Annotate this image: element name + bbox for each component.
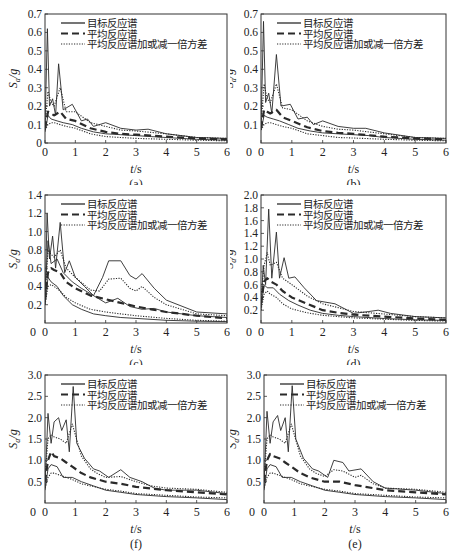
- chart-svg: 01234560.51.01.52.02.53.00Sa/gt/s(e)目标反应…: [230, 365, 461, 553]
- series-line: [45, 424, 227, 492]
- x-tick-label: 0: [42, 145, 48, 159]
- x-tick-label: 1: [72, 325, 78, 339]
- x-axis-label: t/s: [349, 522, 361, 536]
- y-tick-label: 2.5: [247, 390, 262, 402]
- chart-panel-d: 01234560.20.40.60.81.01.21.41.61.82.00Sa…: [230, 182, 461, 365]
- x-tick-label: 4: [382, 505, 388, 519]
- y-tick-label: 0.6: [244, 279, 259, 291]
- y-tick-label: 0.5: [28, 476, 43, 488]
- y-tick-label: 0.6: [28, 262, 43, 274]
- x-tick-label: 5: [413, 505, 419, 519]
- legend-entry: 平均反应谱加或减一倍方差: [303, 219, 423, 231]
- x-tick-label: 2: [103, 145, 109, 159]
- panel-caption: (c): [129, 357, 142, 365]
- chart-svg: 01234560.51.01.52.02.53.00Sa/gt/s(f)目标反应…: [0, 365, 230, 553]
- y-tick-label: 2.0: [244, 189, 259, 201]
- y-tick-label: 2.0: [28, 412, 43, 424]
- legend-entry: 平均反应谱加或减一倍方差: [303, 38, 423, 50]
- x-tick-label: 2: [320, 145, 326, 159]
- y-tick-label: 0.6: [28, 26, 43, 38]
- x-tick-label: 2: [322, 505, 328, 519]
- x-tick-label: 5: [194, 325, 200, 339]
- x-tick-label: 2: [320, 325, 326, 339]
- x-tick-label: 0: [42, 325, 48, 339]
- legend: 目标反应谱平均反应谱平均反应谱加或减一倍方差: [277, 17, 423, 50]
- legend-entry: 平均反应谱加或减一倍方差: [87, 38, 207, 50]
- chart-panel-b: 01234560.10.20.30.40.50.60.70Sa/gt/s(b)目…: [230, 0, 461, 185]
- x-axis-label: t/s: [348, 162, 360, 176]
- legend: 目标反应谱平均反应谱平均反应谱加或减一倍方差: [61, 378, 207, 411]
- y-tick-label: 1.8: [244, 202, 259, 214]
- y-tick-label: 2.5: [28, 390, 43, 402]
- chart-svg: 01234560.10.20.30.40.50.60.70Sa/gt/s(b)目…: [230, 0, 461, 185]
- series-line: [261, 84, 446, 138]
- x-tick-label: 3: [351, 145, 357, 159]
- y-tick-label: 0.5: [244, 45, 259, 57]
- x-tick-label: 6: [443, 325, 449, 339]
- x-tick-label: 5: [194, 505, 200, 519]
- y-tick-label: 3.0: [28, 369, 43, 381]
- panel-caption: (d): [347, 357, 361, 365]
- y-axis-label: Sa/g: [6, 69, 22, 88]
- x-tick-label: 1: [72, 145, 78, 159]
- x-tick-label: 6: [443, 505, 449, 519]
- origin-label: 0: [249, 505, 255, 519]
- y-tick-label: 1.0: [244, 253, 259, 265]
- chart-panel-a: 012345600.10.20.30.40.50.60.7Sa/gt/s(a)目…: [0, 0, 230, 185]
- series-line: [264, 454, 446, 495]
- y-tick-label: 0.2: [28, 299, 43, 311]
- y-tick-label: 1.2: [28, 207, 43, 219]
- x-tick-label: 4: [163, 325, 169, 339]
- y-tick-label: 0.4: [244, 63, 259, 75]
- x-tick-label: 0: [42, 505, 48, 519]
- y-tick-label: 0.4: [28, 63, 43, 75]
- y-axis-label: Sa/g: [6, 429, 22, 448]
- y-axis-label: Sa/g: [230, 249, 238, 268]
- legend-entry: 平均反应谱加或减一倍方差: [87, 399, 207, 411]
- series-line: [45, 250, 227, 316]
- x-tick-label: 6: [443, 145, 449, 159]
- y-tick-label: 1.4: [28, 189, 43, 201]
- series-line: [45, 268, 227, 318]
- y-tick-label: 0.5: [247, 476, 262, 488]
- y-tick-label: 0.7: [244, 8, 259, 20]
- series-line: [45, 465, 227, 500]
- y-tick-label: 1.0: [28, 454, 43, 466]
- legend: 目标反应谱平均反应谱平均反应谱加或减一倍方差: [280, 378, 426, 411]
- x-tick-label: 3: [352, 505, 358, 519]
- x-axis-label: t/s: [130, 342, 142, 356]
- x-tick-label: 2: [103, 505, 109, 519]
- x-tick-label: 2: [103, 325, 109, 339]
- chart-panel-f: 01234560.51.01.52.02.53.00Sa/gt/s(f)目标反应…: [0, 365, 230, 553]
- y-tick-label: 0.1: [28, 119, 43, 131]
- chart-panel-c: 01234560.20.40.60.81.01.21.40Sa/gt/s(c)目…: [0, 182, 230, 365]
- y-tick-label: 1.5: [247, 433, 262, 445]
- panel-caption: (e): [348, 537, 361, 551]
- y-tick-label: 0.3: [28, 82, 43, 94]
- x-tick-label: 3: [133, 145, 139, 159]
- y-tick-label: 1.5: [28, 433, 43, 445]
- y-tick-label: 1.6: [244, 215, 259, 227]
- x-tick-label: 1: [72, 505, 78, 519]
- x-tick-label: 5: [412, 145, 418, 159]
- x-tick-label: 1: [289, 145, 295, 159]
- y-tick-label: 1.4: [244, 227, 259, 239]
- x-tick-label: 0: [261, 505, 267, 519]
- x-axis-label: t/s: [130, 162, 142, 176]
- legend-entry: 平均反应谱加或减一倍方差: [87, 219, 207, 231]
- y-tick-label: 0.4: [244, 291, 259, 303]
- series-line: [45, 88, 227, 139]
- y-axis-label: Sa/g: [6, 249, 22, 268]
- x-tick-label: 0: [258, 145, 264, 159]
- panel-caption: (f): [130, 537, 142, 551]
- x-tick-label: 3: [351, 325, 357, 339]
- y-tick-label: 0.2: [244, 304, 259, 316]
- series-line: [261, 253, 446, 318]
- chart-svg: 012345600.10.20.30.40.50.60.7Sa/gt/s(a)目…: [0, 0, 230, 185]
- y-tick-label: 0.2: [244, 100, 259, 112]
- chart-svg: 01234560.20.40.60.81.01.21.41.61.82.00Sa…: [230, 182, 461, 365]
- y-tick-label: 0.6: [244, 26, 259, 38]
- y-tick-label: 0.2: [28, 100, 43, 112]
- x-tick-label: 1: [291, 505, 297, 519]
- x-tick-label: 5: [194, 145, 200, 159]
